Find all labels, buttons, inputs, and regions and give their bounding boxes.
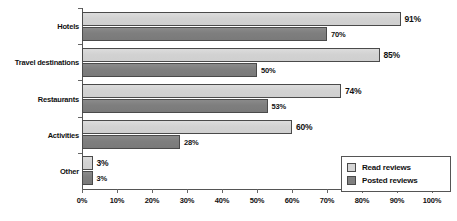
bar-read-activities [82, 120, 292, 134]
value-label-read-hotels: 91% [405, 14, 421, 24]
x-axis-tick-label: 10% [110, 196, 124, 205]
legend-label-posted-reviews: Posted reviews [362, 176, 417, 185]
x-axis-tick-label: 70% [320, 196, 334, 205]
y-axis-tick [78, 153, 82, 154]
bar-posted-travel-destinations [82, 63, 257, 77]
bar-posted-other [82, 171, 93, 185]
category-label-activities: Activities [48, 130, 79, 139]
value-label-read-activities: 60% [296, 122, 312, 132]
y-axis-tick [78, 44, 82, 45]
value-label-read-other: 3% [97, 158, 109, 168]
bar-read-restaurants [82, 84, 341, 98]
value-label-read-travel-destinations: 85% [384, 50, 400, 60]
x-axis-tick-label: 90% [390, 196, 404, 205]
legend-item-posted-reviews: Posted reviews [347, 176, 445, 185]
value-label-posted-hotels: 70% [331, 29, 345, 38]
x-axis-tick [187, 189, 188, 193]
x-axis-tick-label: 30% [180, 196, 194, 205]
x-axis-tick [222, 189, 223, 193]
x-axis-tick [292, 189, 293, 193]
x-axis-tick [257, 189, 258, 193]
bar-chart: 0%10%20%30%40%50%60%70%80%90%100% Hotels… [0, 0, 457, 221]
bar-read-other [82, 156, 93, 170]
x-axis-tick-label: 50% [250, 196, 264, 205]
bar-posted-activities [82, 135, 180, 149]
x-axis-tick [82, 189, 83, 193]
y-axis-tick [78, 80, 82, 81]
value-label-posted-other: 3% [97, 174, 107, 183]
value-label-read-restaurants: 74% [345, 86, 361, 96]
category-label-travel-destinations: Travel destinations [15, 58, 79, 67]
category-label-hotels: Hotels [57, 22, 79, 31]
bar-read-hotels [82, 12, 401, 26]
x-axis-tick-label: 20% [145, 196, 159, 205]
category-label-restaurants: Restaurants [38, 94, 79, 103]
bar-posted-hotels [82, 27, 327, 41]
x-axis-tick-label: 40% [215, 196, 229, 205]
value-label-posted-travel-destinations: 50% [261, 65, 275, 74]
y-axis-tick [78, 117, 82, 118]
category-label-other: Other [60, 166, 79, 175]
value-label-posted-restaurants: 53% [272, 102, 286, 111]
x-axis-tick [152, 189, 153, 193]
legend-swatch-read-reviews [347, 163, 356, 172]
bar-read-travel-destinations [82, 48, 380, 62]
x-axis-tick [327, 189, 328, 193]
chart-legend: Read reviews Posted reviews [341, 156, 451, 192]
x-axis-tick-label: 100% [423, 196, 441, 205]
bar-posted-restaurants [82, 99, 268, 113]
value-label-posted-activities: 28% [184, 138, 198, 147]
x-axis-tick-label: 80% [355, 196, 369, 205]
x-axis-tick-label: 0% [77, 196, 87, 205]
x-axis-tick [117, 189, 118, 193]
legend-item-read-reviews: Read reviews [347, 163, 445, 172]
legend-swatch-posted-reviews [347, 176, 356, 185]
y-axis-tick [78, 8, 82, 9]
legend-label-read-reviews: Read reviews [362, 163, 411, 172]
x-axis-tick-label: 60% [285, 196, 299, 205]
